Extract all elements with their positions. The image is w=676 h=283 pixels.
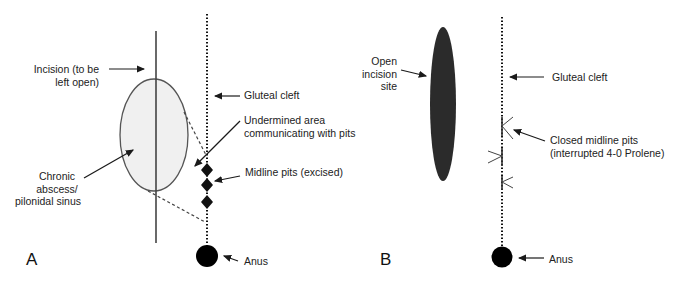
anus-circle-a [196,245,218,267]
label-abscess: Chronic abscess/ pilonidal sinus [10,170,86,208]
label-open-incision: Open incision site [350,55,397,93]
label-anus-b: Anus [549,253,573,266]
label-closed-pits-line2: (interrupted 4-0 Prolene) [550,147,664,160]
label-open-incision-line3: site [350,80,397,93]
label-gluteal-cleft-a: Gluteal cleft [244,89,299,102]
suture-1 [502,117,513,139]
suture-2 [488,151,502,163]
label-open-incision-line1: Open [350,55,397,68]
panel-a-drawing [84,14,240,267]
label-closed-pits-line1: Closed midline pits [550,134,664,147]
arrow-closed-pits [514,130,545,141]
label-gluteal-cleft-b: Gluteal cleft [552,71,607,84]
panel-letter-a: A [26,250,37,270]
midline-pit-diamond [201,195,213,209]
label-closed-pits: Closed midline pits (interrupted 4-0 Pro… [550,134,664,159]
suture-3 [502,177,513,188]
arrow-midline-pits [215,176,240,181]
label-undermined-area: Undermined area communicating with pits [244,114,355,139]
label-abscess-line3: pilonidal sinus [10,195,86,208]
label-abscess-line1: Chronic [10,170,86,183]
midline-pit-diamond [201,178,213,192]
label-midline-pits: Midline pits (excised) [245,166,343,179]
midline-pit-diamond [201,163,213,177]
arrow-anus-a [224,256,238,261]
arrow-undermined [195,121,240,166]
anus-circle-b [492,247,513,268]
open-incision-ellipse [430,27,456,181]
label-incision-line2: left open) [20,76,99,89]
label-incision: Incision (to be left open) [20,63,99,88]
label-incision-line1: Incision (to be [20,63,99,76]
panel-letter-b: B [380,250,391,270]
label-undermined-line1: Undermined area [244,114,355,127]
panel-b-drawing [401,17,545,268]
abscess-ellipse [120,79,188,191]
label-open-incision-line2: incision [350,68,397,81]
label-anus-a: Anus [244,255,268,268]
label-abscess-line2: abscess/ [10,183,86,196]
label-undermined-line2: communicating with pits [244,127,355,140]
arrow-open-incision [401,70,426,76]
